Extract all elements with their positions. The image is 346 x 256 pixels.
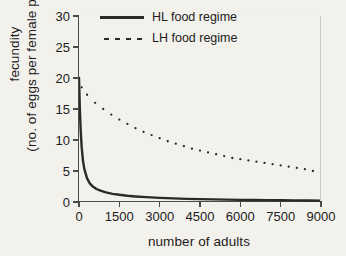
x-tick-mark — [240, 201, 242, 207]
data-point — [215, 153, 217, 155]
data-point — [126, 123, 128, 125]
data-point — [191, 148, 193, 150]
data-point — [304, 168, 306, 170]
data-point — [255, 161, 257, 163]
y-axis-title-line1: fecundity — [6, 27, 23, 82]
data-point — [94, 102, 96, 104]
data-point — [159, 137, 161, 139]
series-hl-food-regime — [79, 78, 321, 201]
legend-item-lh: LH food regime — [100, 31, 237, 45]
x-tick-label: 7500 — [266, 210, 295, 223]
y-tick-mark — [73, 108, 79, 110]
data-point — [280, 164, 282, 166]
data-point — [288, 166, 290, 168]
data-point — [312, 170, 314, 172]
plot-frame-right — [320, 16, 321, 201]
y-axis-title-line2: (no. of eggs per female per day) — [23, 0, 40, 152]
data-point — [207, 151, 209, 153]
y-tick-label: 30 — [56, 10, 70, 23]
data-point — [175, 143, 177, 145]
data-point — [271, 163, 273, 165]
figure-canvas: fecundity (no. of eggs per female per da… — [0, 0, 346, 256]
data-point — [102, 108, 104, 110]
data-point — [81, 86, 83, 88]
x-tick-mark — [159, 201, 161, 207]
y-tick-mark — [73, 139, 79, 141]
data-point — [118, 118, 120, 120]
y-tick-label: 10 — [56, 134, 70, 147]
y-axis-title: fecundity (no. of eggs per female per da… — [2, 0, 44, 149]
x-tick-mark — [199, 201, 201, 207]
data-point — [199, 149, 201, 151]
x-tick-mark — [280, 201, 282, 207]
series-lh-food-regime — [81, 86, 321, 174]
x-tick-mark — [119, 201, 121, 207]
data-point — [142, 131, 144, 133]
x-tick-label: 4500 — [186, 210, 215, 223]
data-point — [110, 113, 112, 115]
y-tick-mark — [73, 46, 79, 48]
legend-label-hl: HL food regime — [152, 10, 237, 24]
legend: HL food regime LH food regime — [100, 10, 237, 45]
data-point — [183, 145, 185, 147]
legend-swatch-solid-line — [100, 12, 144, 22]
x-tick-label: 6000 — [226, 210, 255, 223]
data-point — [231, 157, 233, 159]
x-tick-label: 0 — [75, 210, 82, 223]
y-tick-mark — [73, 15, 79, 17]
data-point — [167, 140, 169, 142]
y-tick-mark — [73, 77, 79, 79]
y-tick-label: 20 — [56, 72, 70, 85]
data-point — [223, 155, 225, 157]
y-tick-label: 5 — [63, 165, 70, 178]
data-point — [296, 167, 298, 169]
x-tick-label: 3000 — [145, 210, 174, 223]
data-point — [239, 158, 241, 160]
data-point — [86, 94, 88, 96]
x-axis-title: number of adults — [78, 234, 320, 249]
y-tick-label: 15 — [56, 103, 70, 116]
data-point — [247, 159, 249, 161]
legend-swatch-dotted-line — [100, 33, 144, 43]
x-tick-label: 9000 — [307, 210, 336, 223]
data-point — [263, 162, 265, 164]
x-tick-mark — [320, 201, 322, 207]
x-tick-label: 1500 — [105, 210, 134, 223]
y-tick-label: 0 — [63, 196, 70, 209]
y-tick-mark — [73, 170, 79, 172]
legend-item-hl: HL food regime — [100, 10, 237, 24]
data-point — [134, 127, 136, 129]
data-point — [150, 134, 152, 136]
x-tick-mark — [78, 201, 80, 207]
legend-label-lh: LH food regime — [152, 31, 237, 45]
y-tick-label: 25 — [56, 41, 70, 54]
